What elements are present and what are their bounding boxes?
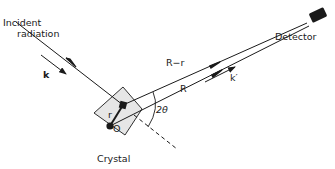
detector-label: Detector (275, 31, 316, 42)
r-label: r (108, 109, 112, 120)
two-theta-label: 2θ (156, 104, 168, 115)
R-label: R (180, 83, 187, 94)
forward-direction-dashed (134, 115, 177, 149)
incident-label-line1: Incident (3, 17, 41, 28)
incident-label-line2: radiation (17, 28, 59, 39)
diffraction-diagram (0, 0, 335, 169)
crystal-label: Crystal (97, 153, 130, 164)
detector-icon (309, 7, 328, 23)
origin-label: O (113, 123, 120, 134)
k-prime-label: k′ (230, 72, 238, 83)
beam-r-minus-r-arrow-icon (210, 62, 220, 68)
k-label: k (43, 69, 49, 80)
two-theta-arc (148, 92, 156, 127)
r-minus-r-label: R−r (166, 57, 184, 68)
